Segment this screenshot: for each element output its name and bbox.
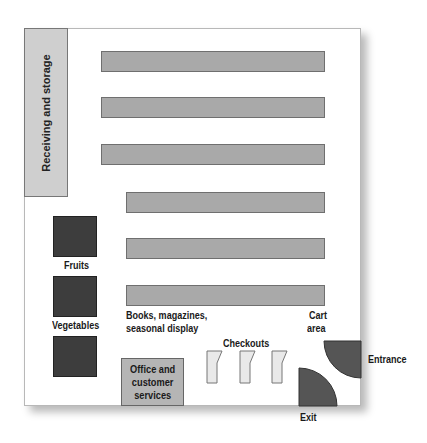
checkout-counters <box>0 0 427 443</box>
office-label-line2: customer <box>130 376 175 389</box>
office-label-line3: services <box>130 389 175 402</box>
exit-label: Exit <box>300 411 317 423</box>
office-customer-services: Office and customer services <box>121 358 184 406</box>
office-label-line1: Office and <box>130 363 175 376</box>
entrance-label: Entrance <box>368 353 407 365</box>
